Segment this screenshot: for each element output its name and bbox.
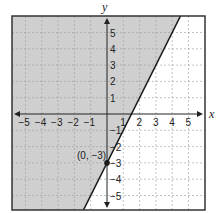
x-tick-label: −1 [84,117,96,128]
x-axis-label: x [208,107,215,121]
point-marker [104,160,110,166]
y-tick-label: 4 [110,44,116,55]
x-axis-right-arrow-icon [197,111,203,117]
shaded-region [12,16,180,210]
y-axis-down-arrow-icon [104,202,110,208]
x-tick-label: 4 [169,117,175,128]
y-tick-label: −3 [110,158,122,169]
x-tick-label: 2 [137,117,143,128]
y-axis-label: y [101,0,108,14]
y-tick-label: 2 [110,76,116,87]
x-tick-label: −4 [35,117,47,128]
x-tick-label: 5 [186,117,192,128]
x-tick-label: −5 [19,117,31,128]
y-tick-label: 5 [110,28,116,39]
shaded-area [12,16,180,210]
x-tick-label: 3 [153,117,159,128]
x-tick-label: −2 [67,117,79,128]
y-tick-label: 1 [110,93,116,104]
y-tick-label: −2 [110,142,122,153]
point-label: (0, −3) [77,150,106,161]
coordinate-plane: −5−4−3−2−112345−5−4−3−2−112345 y x (0, −… [0,0,218,213]
x-tick-label: −3 [51,117,63,128]
y-tick-label: −4 [110,174,122,185]
y-tick-label: −1 [110,125,122,136]
y-tick-label: −5 [110,191,122,202]
y-tick-label: 3 [110,60,116,71]
